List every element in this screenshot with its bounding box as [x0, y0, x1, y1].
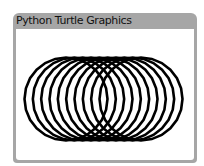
turtle-drawing [16, 29, 194, 160]
turtle-window: Python Turtle Graphics [13, 13, 197, 163]
window-title: Python Turtle Graphics [16, 13, 132, 29]
title-bar[interactable]: Python Turtle Graphics [13, 13, 197, 29]
turtle-canvas [16, 29, 194, 160]
